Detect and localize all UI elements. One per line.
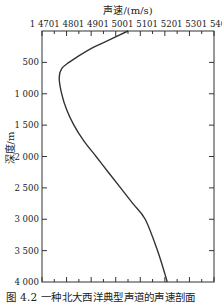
- plot-frame: [42, 31, 214, 282]
- y-tick-label: 3 000: [14, 214, 39, 224]
- y-tick-label: 2 500: [14, 183, 39, 193]
- x-tick-label: 1 470: [30, 19, 55, 29]
- x-tick-label: 1 530: [177, 19, 202, 29]
- x-tick-label: 1 500: [103, 19, 128, 29]
- y-tick-label: 2 000: [14, 152, 39, 162]
- x-tick-label: 1 510: [128, 19, 153, 29]
- x-tick-label: 1 520: [153, 19, 178, 29]
- y-tick-labels: 5001 0001 5002 0002 5003 0003 5004 000: [14, 57, 39, 287]
- y-axis-title: 深度/m: [4, 131, 16, 164]
- sound-speed-chart: 1 4701 4801 4901 5001 5101 5201 5301 540…: [0, 0, 222, 303]
- sound-speed-curve: [59, 31, 167, 282]
- x-tick-labels: 1 4701 4801 4901 5001 5101 5201 5301 540: [30, 19, 222, 29]
- y-tick-label: 1 500: [14, 120, 39, 130]
- y-tick-label: 500: [23, 57, 39, 67]
- x-tick-label: 1 490: [79, 19, 104, 29]
- axis-ticks: [42, 31, 214, 282]
- figure-caption: 图 4.2 一种北大西洋典型声道的声速剖面: [0, 289, 222, 303]
- y-tick-label: 4 000: [14, 277, 39, 287]
- y-tick-label: 3 500: [14, 246, 39, 256]
- x-tick-label: 1 540: [202, 19, 222, 29]
- y-tick-label: 1 000: [14, 89, 39, 99]
- x-tick-label: 1 480: [54, 19, 79, 29]
